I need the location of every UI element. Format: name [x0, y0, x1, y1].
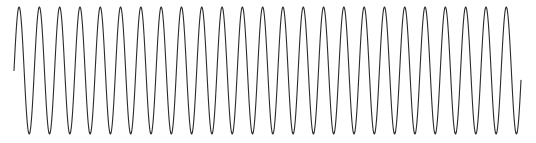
- waveform-plot: [0, 0, 536, 143]
- waveform-canvas: [0, 0, 536, 143]
